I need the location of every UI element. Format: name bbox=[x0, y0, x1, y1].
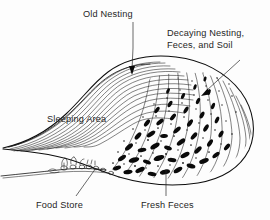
food-store-group bbox=[1, 157, 113, 178]
old-nesting-strands bbox=[8, 62, 194, 151]
nest-lower-outline bbox=[3, 149, 119, 177]
ground-line bbox=[1, 169, 106, 177]
label-food-store: Food Store bbox=[36, 200, 83, 210]
food-items bbox=[48, 157, 113, 175]
label-fresh-feces: Fresh Feces bbox=[141, 200, 194, 210]
decaying-nesting-leader bbox=[206, 60, 240, 91]
old-nesting-leader bbox=[132, 22, 133, 70]
diagram-canvas: Old Nesting Decaying Nesting, Feces, and… bbox=[0, 0, 270, 220]
ground-line-secondary bbox=[3, 171, 108, 178]
label-old-nesting: Old Nesting bbox=[83, 9, 133, 19]
label-decaying-nesting-line1: Decaying Nesting, bbox=[167, 28, 244, 38]
nest-diagram-figure: Old Nesting Decaying Nesting, Feces, and… bbox=[0, 0, 270, 220]
food-store-leader bbox=[76, 168, 96, 196]
label-sleeping-area: Sleeping Area bbox=[47, 114, 107, 124]
label-decaying-nesting-line2: Feces, and Soil bbox=[167, 40, 233, 50]
feces-blobs bbox=[112, 76, 231, 177]
